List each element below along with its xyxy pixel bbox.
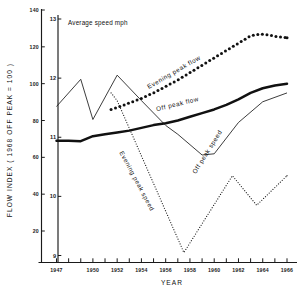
series-marker [267,194,268,195]
series-marker [278,183,279,184]
series-marker [227,183,228,184]
chart-canvas: 2040608010012014091011121319471950195219… [0,0,303,297]
series-marker [114,96,115,97]
series-marker [157,191,158,192]
series-marker [170,222,171,223]
series-marker [274,35,277,38]
series-marker [285,176,286,177]
series-marker [134,139,135,140]
series-marker [276,185,277,186]
series-marker [241,186,242,187]
series-marker [144,95,147,98]
series-marker [112,94,113,95]
series-marker [175,234,176,235]
series-marker [220,52,223,55]
series-marker [204,62,207,65]
series-marker [177,239,178,240]
series-marker [205,218,206,219]
series-marker [237,182,238,183]
series-marker [221,192,222,193]
series-marker [161,87,164,90]
x-axis-tick-label: 1960 [208,267,221,273]
series-marker [234,178,235,179]
flow-axis-tick-label: 80 [33,118,39,124]
series-marker [200,225,201,226]
series-marker [152,91,155,94]
series-marker [224,50,227,53]
series-marker [269,192,270,193]
series-marker [182,248,183,249]
series-marker [219,196,220,197]
series-marker [283,178,284,179]
series-marker [163,205,164,206]
series-marker [160,198,161,199]
series-marker [125,120,126,121]
series-marker [270,34,273,37]
series-marker [194,236,195,237]
series-marker [279,36,282,39]
series-marker [225,185,226,186]
series-marker [176,236,177,237]
series-marker [138,148,139,149]
series-marker [150,177,151,178]
series-marker [169,220,170,221]
series-marker [148,93,151,96]
series-marker [144,162,145,163]
series-marker [177,78,180,81]
series-marker [121,110,122,111]
x-axis-tick-label: 1964 [256,267,269,273]
series-marker [165,210,166,211]
series-marker [165,85,168,88]
series-marker [189,71,192,74]
series-marker [110,108,113,111]
series-marker [173,80,176,83]
series-marker [110,92,111,93]
x-axis-tick-label: 1952 [111,267,124,273]
series-line-off-peak-speed [57,75,288,155]
series-marker [164,208,165,209]
series-marker [196,66,199,69]
series-marker [270,191,271,192]
series-marker [212,207,213,208]
series-marker [151,179,152,180]
series-marker [251,198,252,199]
series-marker [149,174,150,175]
series-marker [261,33,264,36]
series-marker [132,136,133,137]
series-marker [146,167,147,168]
x-axis-tick-label: 1954 [135,267,148,273]
series-marker [136,143,137,144]
series-marker [199,227,200,228]
y-axis-title: FLOW INDEX ( 1968 OFF PEAK = 100 ) [6,63,14,217]
series-marker [127,124,128,125]
series-marker [244,190,245,191]
series-marker [148,172,149,173]
series-marker [147,170,148,171]
series-marker [124,117,125,118]
series-marker [230,178,231,179]
series-marker [212,57,215,60]
flow-axis-tick-label: 20 [33,228,39,234]
chart-figure: 2040608010012014091011121319471950195219… [0,0,303,297]
speed-axis-tick-label: 10 [50,193,56,199]
x-axis-tick-label: 1966 [281,267,294,273]
series-label-evening-peak-flow: Evening peak flow [146,54,202,91]
series-marker [141,155,142,156]
series-marker [248,35,251,38]
series-marker [181,246,182,247]
series-group [57,33,289,253]
series-marker [127,102,130,105]
series-marker [137,146,138,147]
series-marker [217,198,218,199]
series-marker [152,181,153,182]
series-marker [263,198,264,199]
series-marker [154,186,155,187]
x-axis-tick-label: 1958 [184,267,197,273]
series-marker [286,36,289,39]
series-marker [123,103,126,106]
series-marker [236,42,239,45]
series-marker [252,200,253,201]
series-marker [214,203,215,204]
series-marker [233,176,234,177]
x-axis-title: YEAR [161,279,183,286]
